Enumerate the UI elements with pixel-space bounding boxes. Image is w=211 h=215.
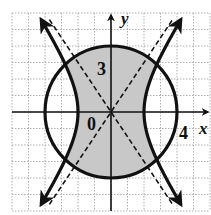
y-axis-label: y xyxy=(119,9,129,28)
y-tick-label-3: 3 xyxy=(97,59,106,79)
x-axis-label: x xyxy=(198,119,208,138)
x-tick-label-4: 4 xyxy=(179,123,188,143)
origin-label: 0 xyxy=(87,114,96,134)
graph: y x 0 3 4 xyxy=(0,0,211,215)
